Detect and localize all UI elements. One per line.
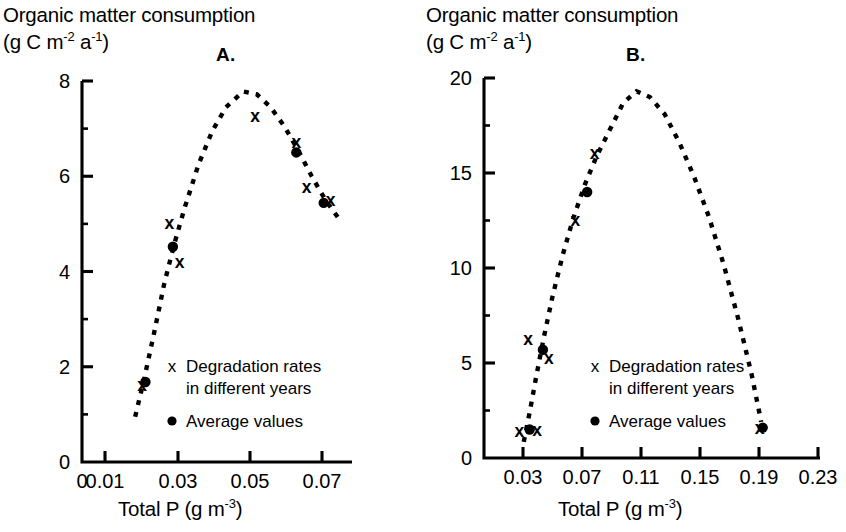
legend-label-degradation-line2: in different years	[186, 379, 311, 398]
y-tick-label: 0	[59, 451, 70, 473]
data-point-average	[582, 187, 592, 197]
axis-spine	[484, 78, 820, 458]
legend-label-average-values: Average values	[186, 412, 303, 431]
y-tick-label: 2	[59, 356, 70, 378]
x-tick-label: 0.11	[622, 466, 659, 488]
x-tick-label: 0.19	[740, 466, 779, 488]
data-point-degradation-rate: x	[165, 213, 175, 233]
panel-a-plot: 0246800.010.030.050.07xxxxxxxxDegradatio…	[0, 0, 423, 490]
legend-marker-x: x	[591, 357, 600, 376]
legend-label-degradation-line1: Degradation rates	[609, 357, 744, 376]
data-point-average	[140, 377, 150, 387]
data-point-degradation-rate: x	[523, 329, 533, 349]
data-point-degradation-rate: x	[250, 106, 260, 126]
data-point-degradation-rate: x	[302, 177, 312, 197]
data-point-average	[524, 424, 534, 434]
x-tick-label: 0.05	[231, 470, 270, 492]
data-point-average	[168, 242, 178, 252]
data-point-degradation-rate: x	[514, 421, 524, 441]
y-tick-label: 4	[59, 261, 70, 283]
data-point-average	[538, 345, 548, 355]
y-tick-label: 6	[59, 165, 70, 187]
y-tick-label: 5	[461, 352, 472, 374]
data-point-average	[291, 147, 301, 157]
x-tick-label: 0.03	[504, 466, 543, 488]
legend-marker-x: x	[168, 357, 177, 376]
y-tick-label: 10	[450, 257, 472, 279]
y-tick-label: 20	[450, 67, 472, 89]
legend-label-average-values: Average values	[609, 412, 726, 431]
y-tick-label: 8	[59, 70, 70, 92]
data-point-degradation-rate: x	[570, 210, 580, 230]
x-tick-label: 0.01	[86, 470, 125, 492]
figure-two-panel-scatter: Organic matter consumption (g C m-2 a-1)…	[0, 0, 846, 532]
x-tick-label: 0.07	[303, 470, 342, 492]
x-axis-title-exponent: -3	[225, 496, 236, 511]
data-point-average	[757, 422, 767, 432]
data-point-average	[319, 198, 329, 208]
panel-b-plot: 051015200.030.070.110.150.190.23xxxxxxxx…	[423, 0, 846, 490]
x-tick-label: 0.03	[159, 470, 198, 492]
x-tick-label: 0.07	[563, 466, 602, 488]
y-tick-label: 0	[461, 447, 472, 469]
panel-a: Organic matter consumption (g C m-2 a-1)…	[0, 0, 423, 532]
data-point-degradation-rate: x	[590, 143, 600, 163]
legend-marker-dot	[167, 416, 176, 425]
axis-spine	[82, 81, 352, 462]
legend-label-degradation-line2: in different years	[609, 379, 734, 398]
panel-a-x-axis-title: Total P (g m-3)	[118, 497, 242, 521]
panel-b-x-axis-title: Total P (g m-3)	[558, 497, 682, 521]
x-axis-title-exponent: -3	[665, 496, 676, 511]
legend-label-degradation-line1: Degradation rates	[186, 357, 321, 376]
panel-b: Organic matter consumption (g C m-2 a-1)…	[423, 0, 846, 532]
x-tick-label: 0.23	[799, 466, 838, 488]
data-point-degradation-rate: x	[175, 252, 185, 272]
legend-marker-dot	[590, 416, 599, 425]
y-tick-label: 15	[450, 162, 472, 184]
x-tick-label: 0.15	[681, 466, 720, 488]
